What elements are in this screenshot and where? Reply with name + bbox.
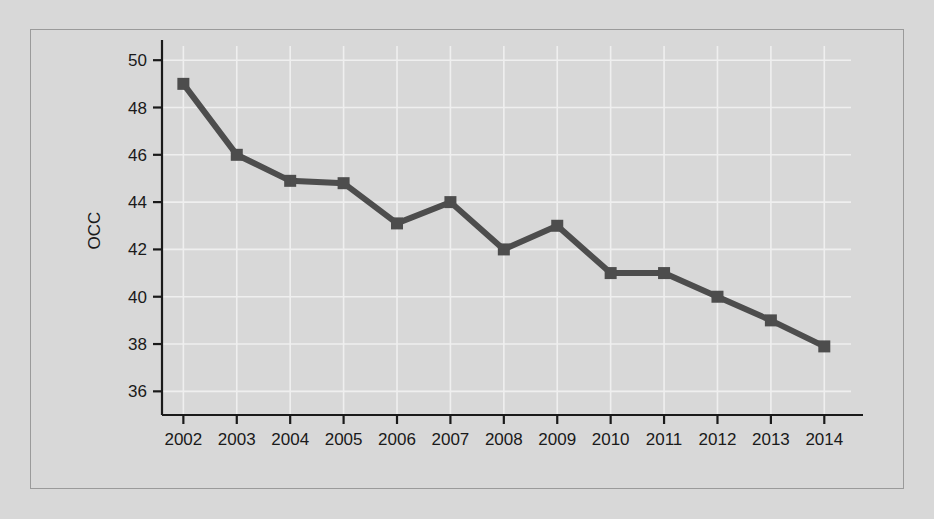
y-tick-label: 46 [128,146,147,165]
x-tick-label: 2003 [218,430,256,449]
data-point-marker [711,291,723,303]
data-point-marker [605,267,617,279]
x-tick-label: 2012 [699,430,737,449]
data-point-marker [658,267,670,279]
data-point-marker [498,243,510,255]
data-point-marker [765,314,777,326]
data-point-marker [551,220,563,232]
figure-frame: 3638404244464850 20022003200420052006200… [30,29,904,489]
data-point-marker [338,177,350,189]
y-tick-label: 40 [128,288,147,307]
x-tick-label: 2002 [164,430,202,449]
data-point-marker [391,217,403,229]
x-tick-label: 2014 [805,430,843,449]
x-tick-label: 2009 [538,430,576,449]
x-tick-label: 2004 [271,430,309,449]
y-tick-label: 36 [128,382,147,401]
y-axis-title: OCC [85,212,104,250]
x-tick-label: 2013 [752,430,790,449]
line-chart: 3638404244464850 20022003200420052006200… [31,30,903,488]
figure-root: 3638404244464850 20022003200420052006200… [0,0,934,519]
x-tick-label: 2005 [325,430,363,449]
data-point-marker [284,175,296,187]
data-point-marker [177,78,189,90]
x-tick-label: 2011 [646,430,683,449]
data-point-marker [818,340,830,352]
x-tick-label: 2007 [432,430,470,449]
data-point-marker [231,149,243,161]
y-tick-label: 50 [128,51,147,70]
y-axis-title-text: OCC [85,212,104,250]
x-tick-label: 2008 [485,430,523,449]
y-tick-label: 38 [128,335,147,354]
y-tick-label: 42 [128,240,147,259]
y-tick-label: 48 [128,99,147,118]
x-tick-label: 2006 [378,430,416,449]
y-tick-label: 44 [128,193,147,212]
data-point-marker [444,196,456,208]
x-tick-label: 2010 [592,430,630,449]
